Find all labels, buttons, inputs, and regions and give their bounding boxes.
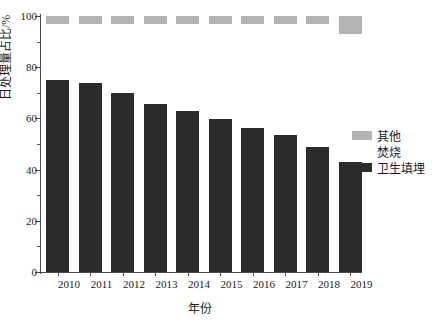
x-axis-line — [40, 272, 362, 273]
bar-segment — [274, 24, 297, 135]
y-tick-label: 100 — [21, 10, 38, 22]
y-axis-title: 日处理量占比/% — [0, 0, 14, 100]
y-tick-label: 60 — [26, 112, 37, 124]
x-tick — [318, 272, 319, 276]
y-tick-label: 0 — [32, 266, 38, 278]
bar-column — [274, 16, 297, 272]
bar-column — [144, 16, 167, 272]
legend-item[interactable]: 卫生填埋 — [352, 160, 438, 175]
x-tick — [58, 272, 59, 276]
bar-column — [176, 16, 199, 272]
x-tick — [253, 272, 254, 276]
chart-container: 020406080100 201020112012201320142015201… — [0, 0, 439, 326]
chart-legend: 其他焚烧卫生填埋 — [352, 128, 438, 176]
legend-item[interactable]: 其他 — [352, 128, 438, 143]
y-tick-label: 40 — [26, 164, 37, 176]
bar-segment — [79, 24, 102, 83]
x-tick — [123, 272, 124, 276]
x-tick — [220, 272, 221, 276]
bar-segment — [241, 16, 264, 24]
x-tick — [155, 272, 156, 276]
y-tick-minor — [37, 144, 40, 145]
bar-segment — [46, 16, 69, 24]
bar-column — [306, 16, 329, 272]
bar-segment — [111, 16, 134, 24]
bar-segment — [111, 93, 134, 272]
x-tick — [188, 272, 189, 276]
bar-segment — [339, 162, 362, 272]
y-tick-minor — [37, 42, 40, 43]
legend-swatch — [352, 163, 372, 172]
bar-segment — [46, 24, 69, 80]
legend-swatch — [352, 131, 372, 140]
x-tick-label: 2019 — [339, 278, 385, 290]
bar-column — [79, 16, 102, 272]
bar-segment — [176, 24, 199, 111]
bar-segment — [274, 16, 297, 24]
bar-segment — [144, 104, 167, 272]
legend-swatch — [352, 147, 372, 156]
bar-segment — [306, 16, 329, 24]
legend-item[interactable]: 焚烧 — [352, 144, 438, 159]
bar-column — [46, 16, 69, 272]
bar-segment — [176, 16, 199, 24]
bar-segment — [241, 24, 264, 128]
x-tick — [90, 272, 91, 276]
bar-segment — [209, 119, 232, 272]
bar-segment — [144, 16, 167, 24]
legend-label: 卫生填埋 — [377, 159, 425, 177]
y-tick-label: 80 — [26, 61, 37, 73]
bar-segment — [79, 16, 102, 24]
bar-segment — [209, 24, 232, 120]
bar-segment — [339, 16, 362, 34]
bar-segment — [111, 24, 134, 93]
bar-segment — [144, 24, 167, 104]
bar-segment — [274, 135, 297, 272]
y-tick-minor — [37, 195, 40, 196]
bar-segment — [79, 83, 102, 272]
x-axis-title: 年份 — [0, 299, 400, 317]
bar-column — [111, 16, 134, 272]
bar-segment — [176, 111, 199, 272]
y-tick-minor — [37, 93, 40, 94]
bar-segment — [209, 16, 232, 24]
bar-column — [209, 16, 232, 272]
bar-segment — [241, 128, 264, 272]
bar-segment — [46, 80, 69, 272]
y-tick-minor — [37, 246, 40, 247]
y-axis-line — [40, 14, 41, 274]
bar-column — [241, 16, 264, 272]
bar-segment — [306, 147, 329, 272]
y-tick-label: 20 — [26, 215, 37, 227]
x-tick — [285, 272, 286, 276]
x-tick — [350, 272, 351, 276]
bar-segment — [306, 24, 329, 147]
